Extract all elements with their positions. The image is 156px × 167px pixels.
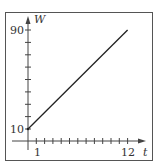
y-axis-label: W [34, 13, 47, 26]
y-tick-label-90: 90 [10, 24, 24, 37]
x-axis-label: t [143, 146, 148, 159]
start-point [27, 128, 30, 131]
y-tick-label-10: 10 [10, 123, 24, 136]
series-line-w [28, 30, 128, 129]
x-tick-label-1: 1 [34, 146, 41, 159]
x-axis-arrow-icon [138, 139, 146, 144]
x-tick-label-12: 12 [121, 146, 135, 159]
chart: W t 90 10 1 12 [0, 0, 156, 167]
y-axis-arrow-icon [26, 16, 31, 24]
